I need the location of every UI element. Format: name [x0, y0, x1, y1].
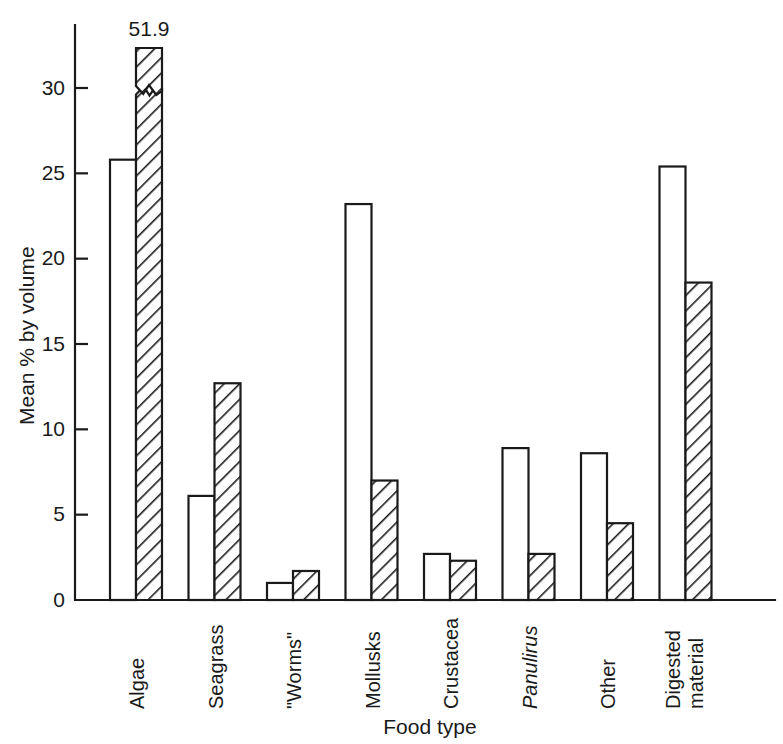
y-tick-label-15: 15 — [42, 332, 65, 355]
x-category-labels: AlgaeSeagrass"Worms"MollusksCrustaceaPan… — [126, 617, 707, 709]
x-label-4: Crustacea — [440, 617, 462, 709]
x-label-6: Other — [597, 659, 619, 709]
bar-hatched-2 — [293, 571, 319, 600]
axis-break-marker — [136, 48, 162, 95]
y-tick-label-0: 0 — [53, 588, 65, 611]
x-label-5: Panulirus — [519, 626, 541, 709]
y-tick-label-5: 5 — [53, 502, 65, 525]
y-tick-labels: 051015202530 — [42, 76, 65, 611]
bar-hatched-broken-cap-0 — [136, 48, 162, 95]
chart-container: 051015202530 51.9 AlgaeSeagrass"Worms"Mo… — [0, 0, 783, 744]
y-tick-label-30: 30 — [42, 76, 65, 99]
bar-open-4 — [424, 554, 450, 600]
value-annotations: 51.9 — [129, 17, 170, 40]
bar-hatched-5 — [529, 554, 555, 600]
x-label-7-line1: material — [685, 638, 707, 709]
x-label-3: Mollusks — [362, 631, 384, 709]
y-tick-label-20: 20 — [42, 246, 65, 269]
bar-open-6 — [581, 453, 607, 600]
bar-hatched-6 — [607, 523, 633, 600]
bar-hatched-3 — [372, 481, 398, 600]
bar-open-1 — [189, 496, 215, 600]
x-label-1: Seagrass — [205, 625, 227, 710]
bar-hatched-broken-lower-0 — [136, 85, 162, 600]
bar-chart: 051015202530 51.9 AlgaeSeagrass"Worms"Mo… — [0, 0, 783, 744]
bar-open-5 — [503, 448, 529, 600]
bar-open-2 — [267, 583, 293, 600]
bar-open-3 — [346, 204, 372, 600]
bar-hatched-1 — [215, 383, 241, 600]
y-tick-label-25: 25 — [42, 161, 65, 184]
bars — [110, 85, 712, 600]
value-annotation-algae: 51.9 — [129, 17, 170, 40]
bar-hatched-7 — [686, 283, 712, 600]
x-axis-title: Food type — [383, 715, 476, 738]
bar-open-0 — [110, 160, 136, 600]
y-tick-label-10: 10 — [42, 417, 65, 440]
x-label-2: "Worms" — [283, 632, 305, 709]
bar-open-7 — [660, 167, 686, 600]
y-axis-title: Mean % by volume — [15, 246, 38, 425]
x-label-7-line0: Digested — [662, 630, 684, 709]
axis-titles: Mean % by volumeFood type — [15, 246, 477, 738]
bar-hatched-4 — [450, 561, 476, 600]
x-label-0: Algae — [126, 658, 148, 709]
